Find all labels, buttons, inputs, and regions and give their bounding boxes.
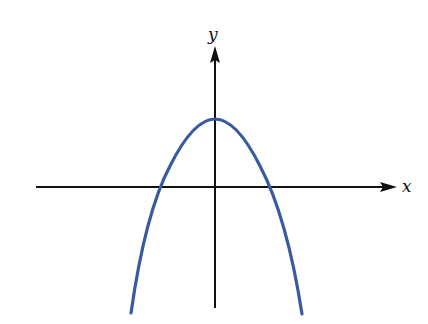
- y-axis-label: y: [207, 24, 218, 44]
- x-axis: [36, 182, 397, 192]
- y-axis: [210, 46, 220, 308]
- x-axis-label: x: [402, 176, 412, 196]
- parabola-graph: x y: [0, 0, 428, 324]
- parabola-curve: [131, 119, 302, 314]
